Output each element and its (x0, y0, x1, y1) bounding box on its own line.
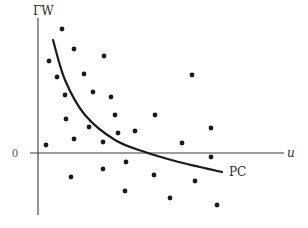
data-point (63, 93, 68, 98)
data-point (72, 137, 77, 142)
data-point (69, 175, 74, 180)
data-point (168, 196, 173, 201)
data-point (113, 113, 118, 118)
data-point (91, 90, 96, 95)
data-point (44, 143, 49, 148)
pc-curve (53, 40, 222, 172)
data-point (60, 27, 65, 32)
zero-tick-label: 0 (12, 146, 18, 160)
data-point (82, 72, 87, 77)
data-point (101, 167, 106, 172)
y-axis-label: ΓW (33, 4, 54, 18)
data-point (180, 141, 185, 146)
data-point (193, 179, 198, 184)
data-point (124, 160, 129, 165)
data-point (64, 117, 69, 122)
scatter-points (44, 27, 220, 208)
data-point (123, 189, 128, 194)
data-point (87, 125, 92, 130)
data-point (47, 59, 52, 64)
data-point (101, 140, 106, 145)
data-point (102, 54, 107, 59)
data-point (215, 203, 220, 208)
data-point (116, 131, 121, 136)
data-point (133, 129, 138, 134)
data-point (153, 113, 158, 118)
data-point (190, 73, 195, 78)
data-point (109, 95, 114, 100)
data-point (55, 75, 60, 80)
data-point (209, 126, 214, 131)
data-point (209, 155, 214, 160)
chart: ΓW u 0 PC (0, 0, 308, 228)
x-axis-label: u (287, 146, 295, 160)
curve-label: PC (229, 165, 246, 179)
data-point (152, 173, 157, 178)
data-point (72, 47, 77, 52)
